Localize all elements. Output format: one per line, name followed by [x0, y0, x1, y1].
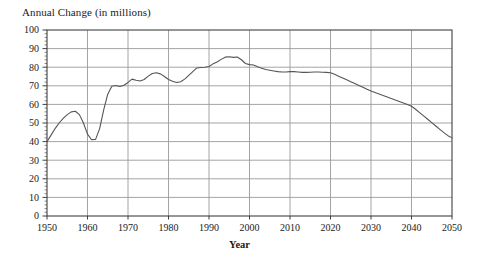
y-tick-label: 70 — [29, 80, 39, 91]
x-tick-label: 1970 — [118, 222, 138, 233]
x-tick-label: 2030 — [361, 222, 381, 233]
x-tick-label: 1990 — [199, 222, 219, 233]
y-tick-label: 80 — [29, 62, 39, 73]
y-tick-label: 50 — [29, 117, 39, 128]
y-tick-label: 90 — [29, 43, 39, 54]
x-axis-tick-labels: 1950196019701980199020002010202020302040… — [37, 222, 462, 233]
chart-figure: Annual Change (in millions) 010203040506… — [0, 0, 489, 268]
y-tick-label: 40 — [29, 136, 39, 147]
y-tick-label: 0 — [34, 210, 39, 221]
x-axis-title-text: Year — [229, 239, 250, 250]
x-axis-title: Year — [0, 239, 489, 250]
x-tick-label: 1980 — [159, 222, 179, 233]
x-tick-label: 2000 — [240, 222, 260, 233]
x-tick-label: 2010 — [280, 222, 300, 233]
line-chart-plot: 0102030405060708090100 19501960197019801… — [0, 0, 489, 268]
x-tick-label: 1960 — [78, 222, 98, 233]
x-tick-label: 2040 — [402, 222, 422, 233]
y-axis-tick-labels: 0102030405060708090100 — [24, 24, 39, 221]
y-tick-label: 100 — [24, 24, 39, 35]
y-tick-label: 20 — [29, 173, 39, 184]
x-tick-label: 1950 — [37, 222, 57, 233]
x-tick-label: 2020 — [321, 222, 341, 233]
x-tick-label: 2050 — [442, 222, 462, 233]
y-tick-label: 10 — [29, 192, 39, 203]
y-tick-label: 60 — [29, 99, 39, 110]
y-tick-label: 30 — [29, 155, 39, 166]
y-axis-major-ticks — [43, 30, 48, 216]
